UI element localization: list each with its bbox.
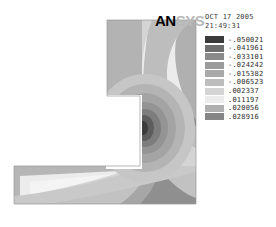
- ansys-logo-an: AN: [155, 12, 176, 29]
- contour-plot-canvas[interactable]: ANSYS: [0, 0, 200, 227]
- legend-swatch: [205, 36, 224, 43]
- contour-ring-core: [138, 121, 148, 135]
- legend-row[interactable]: .028916: [200, 113, 276, 122]
- ansys-contour-plot-window: ANSYS OCT 17 2005 21:49:31 -.050021-.041…: [0, 0, 276, 227]
- time-stamp: 21:49:31: [205, 22, 240, 30]
- legend-label: -.033101: [228, 53, 263, 61]
- legend-swatch: [205, 79, 224, 86]
- legend-label: -.050021: [228, 36, 263, 44]
- contour-legend: -.050021-.041961-.033101-.024242-.015382…: [200, 36, 276, 122]
- ansys-logo-sys: SYS: [176, 12, 205, 29]
- legend-label: .020056: [228, 104, 259, 112]
- legend-swatch: [205, 113, 224, 120]
- legend-label: -.041961: [228, 44, 263, 52]
- legend-swatch: [205, 88, 224, 95]
- contour-plot-svg: [0, 0, 200, 227]
- legend-swatch: [205, 62, 224, 69]
- legend-label: -.006523: [228, 78, 263, 86]
- legend-label: .028916: [228, 113, 259, 121]
- legend-swatch: [205, 96, 224, 103]
- legend-swatch: [205, 45, 224, 52]
- legend-label: -.024242: [228, 61, 263, 69]
- info-panel: OCT 17 2005 21:49:31 -.050021-.041961-.0…: [200, 0, 276, 227]
- legend-swatch: [205, 105, 224, 112]
- legend-label: .011197: [228, 96, 259, 104]
- date-stamp: OCT 17 2005: [205, 13, 254, 21]
- legend-swatch: [205, 53, 224, 60]
- legend-label: -.015382: [228, 70, 263, 78]
- legend-swatch: [205, 70, 224, 77]
- contour-bands-group: [0, 0, 200, 227]
- inner-corner-cutout: [106, 95, 142, 169]
- ansys-logo: ANSYS: [155, 13, 201, 29]
- legend-label: .002337: [228, 87, 259, 95]
